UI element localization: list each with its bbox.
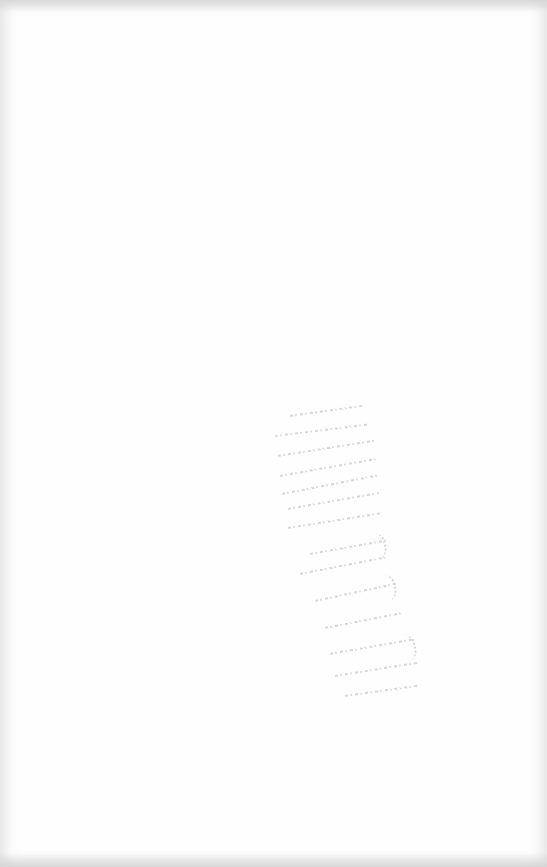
bleed-through-line [290, 405, 364, 417]
bleed-through-line [345, 685, 419, 697]
top-scan-shadow [0, 0, 547, 12]
bleed-through-line [300, 556, 389, 575]
bleed-through-line [335, 662, 419, 677]
bleed-through-glyph [397, 634, 418, 663]
bleed-through-text-area [270, 405, 440, 705]
bleed-through-line [288, 512, 382, 528]
bleed-through-line [282, 474, 379, 494]
bleed-through-line [325, 612, 404, 629]
bottom-scan-shadow [0, 853, 547, 867]
blank-scanned-page [0, 0, 547, 867]
bleed-through-line [275, 423, 369, 436]
bleed-through-glyph [377, 574, 398, 603]
bleed-through-line [278, 439, 377, 456]
bleed-through-line [288, 492, 379, 510]
bleed-through-line [280, 458, 379, 477]
